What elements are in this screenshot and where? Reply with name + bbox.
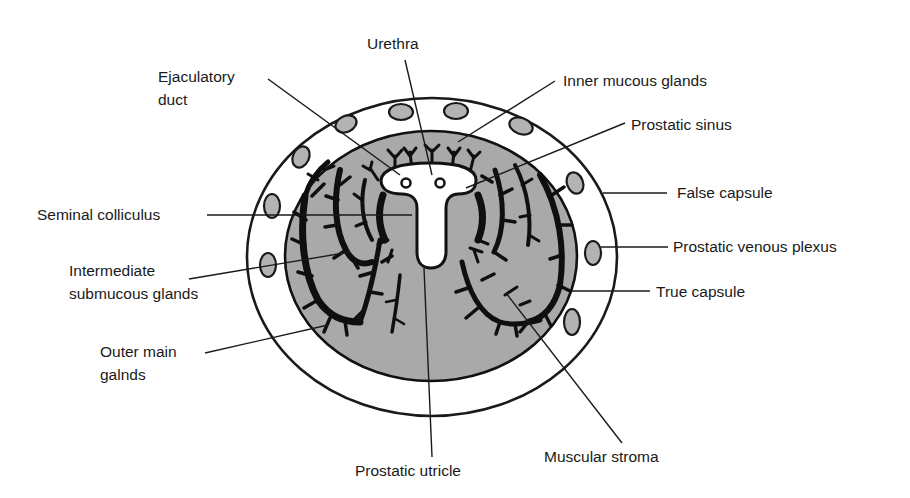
label-prostatic-sinus: Prostatic sinus [631, 116, 732, 133]
label-outer-main-line2: galnds [100, 366, 146, 383]
label-urethra: Urethra [367, 35, 419, 52]
label-intermediate-line1: Intermediate [69, 262, 155, 279]
ejaculatory-duct-opening-right [436, 179, 445, 188]
label-prostatic-venous-plexus: Prostatic venous plexus [673, 238, 837, 255]
label-seminal-colliculus: Seminal colliculus [37, 206, 160, 223]
label-ejaculatory-duct-line2: duct [158, 91, 188, 108]
label-muscular-stroma: Muscular stroma [544, 448, 659, 465]
label-false-capsule: False capsule [677, 184, 773, 201]
label-prostatic-utricle: Prostatic utricle [355, 462, 461, 479]
prostate-cross-section-diagram: Urethra Ejaculatory duct Inner mucous gl… [0, 0, 910, 498]
label-intermediate-line2: submucous glands [69, 285, 198, 302]
label-true-capsule: True capsule [656, 283, 745, 300]
ejaculatory-duct-opening-left [402, 179, 411, 188]
label-ejaculatory-duct-line1: Ejaculatory [158, 68, 235, 85]
label-outer-main-line1: Outer main [100, 343, 177, 360]
label-inner-mucous-glands: Inner mucous glands [563, 72, 707, 89]
